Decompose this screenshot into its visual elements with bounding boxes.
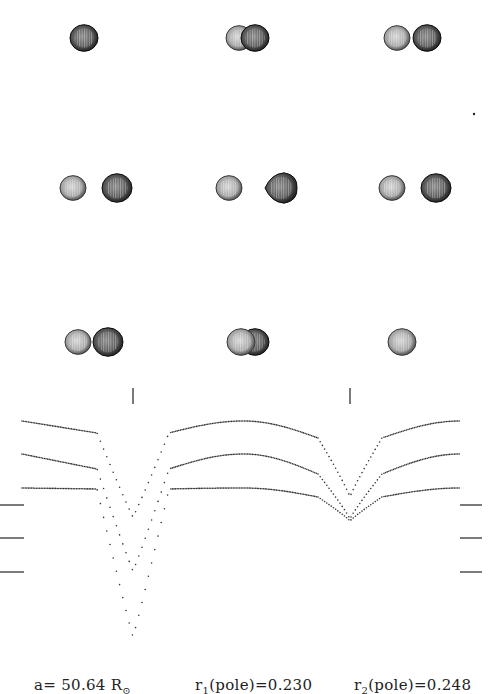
data-point — [212, 423, 214, 425]
data-point — [216, 487, 218, 489]
data-point — [95, 468, 97, 470]
data-point — [186, 488, 188, 490]
data-point — [189, 462, 191, 464]
data-point — [430, 489, 432, 491]
data-point — [308, 494, 310, 496]
data-point — [304, 468, 306, 470]
data-point — [69, 428, 71, 430]
data-point — [341, 514, 343, 516]
data-point — [170, 468, 172, 470]
data-point — [224, 421, 226, 423]
data-point — [335, 509, 337, 511]
data-point — [285, 461, 287, 463]
data-point — [444, 421, 446, 423]
r2-value: (pole)=0.248 — [368, 676, 471, 694]
data-point — [197, 488, 199, 490]
data-point — [208, 423, 210, 425]
data-point — [250, 420, 252, 422]
data-point — [407, 492, 409, 494]
data-point — [208, 488, 210, 490]
data-point — [381, 438, 383, 440]
data-point — [71, 488, 73, 490]
data-point — [295, 492, 297, 494]
data-point — [266, 422, 268, 424]
data-point — [423, 458, 425, 460]
data-point — [234, 487, 236, 489]
data-point — [178, 488, 180, 490]
data-point — [240, 453, 242, 455]
data-point — [55, 426, 57, 428]
a-value: 50.64 — [61, 676, 105, 694]
data-point — [339, 512, 341, 514]
data-point — [388, 435, 390, 437]
data-point — [337, 471, 339, 473]
light-curve-2 — [21, 453, 460, 570]
data-point — [197, 460, 199, 462]
data-point — [366, 464, 368, 466]
data-point — [446, 421, 448, 423]
binary-image-6 — [65, 328, 123, 357]
data-point — [319, 441, 321, 443]
data-point — [322, 479, 324, 481]
data-point — [357, 514, 359, 516]
data-point — [29, 422, 31, 424]
data-point — [47, 458, 49, 460]
data-point — [200, 459, 202, 461]
data-point — [330, 460, 332, 462]
light-curve-3 — [21, 487, 460, 636]
data-point — [226, 454, 228, 456]
data-point — [42, 424, 44, 426]
data-point — [258, 421, 260, 423]
data-point — [264, 488, 266, 490]
data-point — [312, 471, 314, 473]
data-point — [317, 496, 319, 498]
data-point — [31, 455, 33, 457]
data-point — [100, 478, 102, 480]
data-point — [379, 498, 381, 500]
data-point — [266, 488, 268, 490]
data-point — [276, 458, 278, 460]
data-point — [248, 453, 250, 455]
data-point — [406, 464, 408, 466]
data-point — [282, 460, 284, 462]
data-point — [268, 488, 270, 490]
data-point — [287, 491, 289, 493]
data-point — [295, 430, 297, 432]
data-point — [74, 429, 76, 431]
data-point — [269, 423, 271, 425]
data-point — [412, 427, 414, 429]
data-point — [391, 494, 393, 496]
data-point — [311, 471, 313, 473]
data-point — [128, 622, 130, 624]
data-point — [85, 466, 87, 468]
data-point — [181, 488, 183, 490]
data-point — [438, 455, 440, 457]
data-point — [412, 462, 414, 464]
data-point — [66, 488, 68, 490]
data-point — [314, 472, 316, 474]
data-point — [88, 467, 90, 469]
data-point — [218, 487, 220, 489]
data-point — [210, 423, 212, 425]
data-point — [366, 507, 368, 509]
data-point — [106, 530, 108, 532]
data-point — [431, 423, 433, 425]
data-point — [24, 421, 26, 423]
data-point — [379, 476, 381, 478]
data-point — [452, 420, 454, 422]
data-point — [293, 429, 295, 431]
data-point — [48, 425, 50, 427]
data-point — [224, 487, 226, 489]
data-point — [409, 463, 411, 465]
data-point — [191, 488, 193, 490]
data-point — [218, 455, 220, 457]
data-point — [312, 436, 314, 438]
data-point — [66, 427, 68, 429]
data-point — [285, 427, 287, 429]
data-point — [90, 431, 92, 433]
data-point — [322, 445, 324, 447]
data-point — [63, 488, 65, 490]
data-point — [164, 508, 166, 510]
data-point — [293, 464, 295, 466]
data-point — [390, 495, 392, 497]
